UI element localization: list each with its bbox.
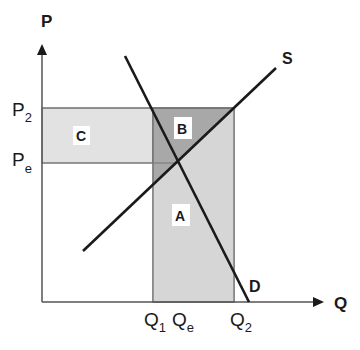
x-axis-label: Q: [334, 294, 347, 313]
y-axis-arrow-icon: [37, 44, 47, 55]
q2-label: Q2: [230, 309, 252, 335]
y-axis-label: P: [41, 12, 52, 31]
region-a-label: A: [175, 208, 185, 224]
region-c: [42, 108, 153, 163]
qe-label: Qe: [172, 309, 194, 335]
region-c-label: C: [76, 128, 86, 144]
supply-label: S: [282, 50, 293, 67]
diagram-canvas: P Q P2 Pe Q1 Qe Q2 S D C B A: [0, 0, 360, 350]
supply-demand-diagram: P Q P2 Pe Q1 Qe Q2 S D C B A: [0, 0, 360, 350]
x-axis-arrow-icon: [313, 297, 324, 307]
p2-label: P2: [12, 99, 32, 125]
pe-label: Pe: [12, 149, 32, 176]
region-b-label: B: [177, 121, 187, 137]
q1-label: Q1: [144, 309, 166, 335]
demand-label: D: [249, 278, 261, 295]
